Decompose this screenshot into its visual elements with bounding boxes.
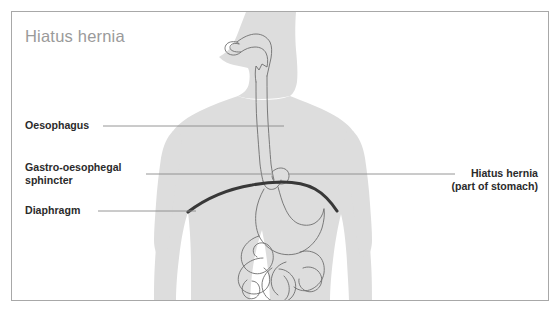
- label-sphincter-line2: sphincter: [25, 174, 122, 187]
- label-hernia-line2: (part of stomach): [451, 180, 538, 193]
- label-hernia-line1: Hiatus hernia: [451, 167, 538, 180]
- label-oesophagus-text: Oesophagus: [25, 119, 89, 131]
- label-diaphragm: Diaphragm: [25, 204, 80, 217]
- label-gastro-oesophageal-sphincter: Gastro-oesophegal sphincter: [25, 161, 122, 187]
- label-diaphragm-text: Diaphragm: [25, 204, 80, 216]
- label-hiatus-hernia: Hiatus hernia (part of stomach): [451, 167, 538, 193]
- anatomy-illustration: [0, 0, 560, 314]
- label-oesophagus: Oesophagus: [25, 119, 89, 132]
- figure-title: Hiatus hernia: [25, 27, 125, 46]
- hiatus-hernia-figure: Hiatus hernia Oesophagus Gastro-oesopheg…: [0, 0, 560, 314]
- label-sphincter-line1: Gastro-oesophegal: [25, 161, 122, 174]
